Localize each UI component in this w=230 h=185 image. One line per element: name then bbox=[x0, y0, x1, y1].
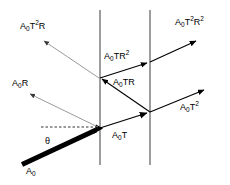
optics-ray-diagram: A0T2R A0T2R2 A0TR2 A0TR A0R A0T2 A0T θ A… bbox=[0, 0, 230, 185]
label-A0R: A0R bbox=[12, 79, 28, 88]
label-A0TR: A0TR bbox=[113, 78, 135, 87]
label-A0: A0 bbox=[26, 167, 36, 176]
label-A0T2R: A0T2R bbox=[20, 22, 45, 31]
reflected-ray-A0R bbox=[30, 94, 98, 127]
label-A0T: A0T bbox=[112, 131, 127, 140]
label-A0T2: A0T2 bbox=[180, 103, 199, 112]
incident-ray-A0 bbox=[22, 130, 96, 165]
transmitted-ray-A0T bbox=[100, 113, 147, 128]
reflected-ray-A0T2R bbox=[44, 41, 99, 78]
label-theta-angle: θ bbox=[45, 137, 50, 146]
label-A0T2R2: A0T2R2 bbox=[175, 18, 204, 27]
emergent-ray-A0T2R2 bbox=[150, 41, 196, 62]
internal-ray-A0TR2 bbox=[100, 63, 147, 78]
label-A0TR2: A0TR2 bbox=[104, 52, 129, 61]
